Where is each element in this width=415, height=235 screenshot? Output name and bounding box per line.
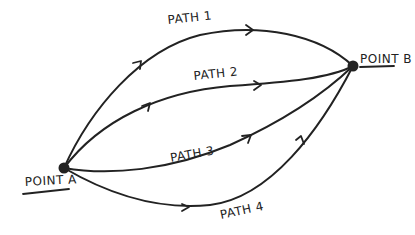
path-2-arrow-icon xyxy=(254,81,261,90)
path-3: PATH 3 xyxy=(64,66,353,171)
route-diagram: PATH 1 PATH 2 PATH 3 PATH 4 POINT A POIN… xyxy=(0,0,415,235)
path-2-label: PATH 2 xyxy=(193,64,239,83)
point-a-label: POINT A xyxy=(24,172,77,189)
point-b-label: POINT B xyxy=(360,52,412,66)
node-point-a: POINT A xyxy=(23,163,77,195)
point-a-underline xyxy=(23,189,69,194)
path-4-arrow-icon xyxy=(296,136,304,144)
node-point-b: POINT B xyxy=(348,52,413,72)
point-b-dot xyxy=(348,61,359,72)
path-3-label: PATH 3 xyxy=(169,143,215,165)
path-1-label: PATH 1 xyxy=(167,8,213,27)
point-b-underline xyxy=(360,66,394,67)
path-4-line xyxy=(64,66,353,206)
